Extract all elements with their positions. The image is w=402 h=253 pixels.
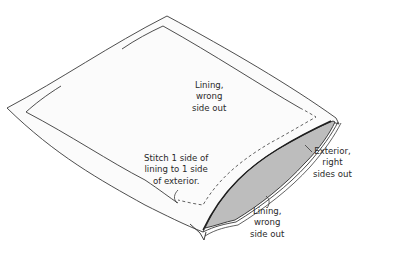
label-lining-top: Lining, wrong side out <box>192 80 226 114</box>
label-stitch-note-line3: of exterior. <box>144 176 208 187</box>
label-lining-bottom-line1: Lining, <box>250 206 284 217</box>
label-exterior-line3: sides out <box>313 169 352 180</box>
label-exterior-line2: right <box>313 157 352 168</box>
label-lining-bottom: Lining, wrong side out <box>250 206 284 240</box>
label-lining-top-line1: Lining, <box>192 80 226 91</box>
label-lining-bottom-line3: side out <box>250 229 284 240</box>
label-lining-top-line3: side out <box>192 103 226 114</box>
label-stitch-note-line1: Stitch 1 side of <box>144 153 208 164</box>
label-exterior-line1: Exterior, <box>313 146 352 157</box>
label-exterior: Exterior, right sides out <box>313 146 352 180</box>
label-lining-top-line2: wrong <box>192 91 226 102</box>
label-stitch-note-line2: lining to 1 side <box>144 164 208 175</box>
diagram-canvas: Lining, wrong side out Stitch 1 side of … <box>0 0 402 253</box>
label-stitch-note: Stitch 1 side of lining to 1 side of ext… <box>144 153 208 187</box>
bag-illustration <box>0 0 402 253</box>
label-lining-bottom-line2: wrong <box>250 217 284 228</box>
